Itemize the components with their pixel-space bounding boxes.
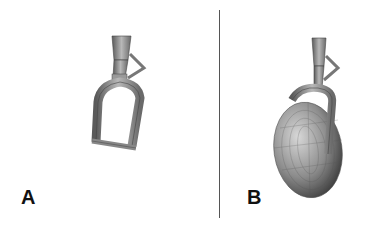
panel-a: A xyxy=(0,0,219,227)
panel-b: B xyxy=(220,0,379,227)
landing-gear-wheel-illustration xyxy=(270,30,370,227)
panel-label-a: A xyxy=(21,186,35,209)
panel-label-b: B xyxy=(247,186,261,209)
landing-gear-fork-illustration xyxy=(80,30,160,160)
